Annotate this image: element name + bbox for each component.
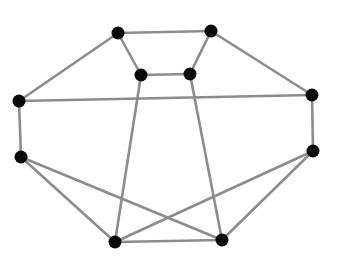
edge-A-C bbox=[118, 33, 141, 75]
edge-E-G bbox=[19, 101, 21, 157]
edge-A-E bbox=[19, 33, 118, 101]
node-E bbox=[13, 95, 26, 108]
edges-layer bbox=[19, 31, 313, 242]
node-J bbox=[216, 234, 229, 247]
edge-G-I bbox=[21, 157, 115, 242]
node-G bbox=[15, 151, 28, 164]
node-H bbox=[307, 145, 320, 158]
edge-B-F bbox=[211, 31, 312, 95]
edge-C-D bbox=[141, 74, 190, 75]
edge-F-H bbox=[312, 95, 313, 151]
edge-A-B bbox=[118, 31, 211, 33]
node-A bbox=[112, 27, 125, 40]
nodes-layer bbox=[13, 25, 320, 249]
node-B bbox=[205, 25, 218, 38]
node-D bbox=[184, 68, 197, 81]
edge-D-J bbox=[190, 74, 222, 240]
edge-H-I bbox=[115, 151, 313, 242]
node-C bbox=[135, 69, 148, 82]
edge-H-J bbox=[222, 151, 313, 240]
edge-I-J bbox=[115, 240, 222, 242]
graph-diagram bbox=[0, 0, 339, 266]
node-F bbox=[306, 89, 319, 102]
edge-B-D bbox=[190, 31, 211, 74]
edge-G-J bbox=[21, 157, 222, 240]
edge-E-F bbox=[19, 95, 312, 101]
node-I bbox=[109, 236, 122, 249]
